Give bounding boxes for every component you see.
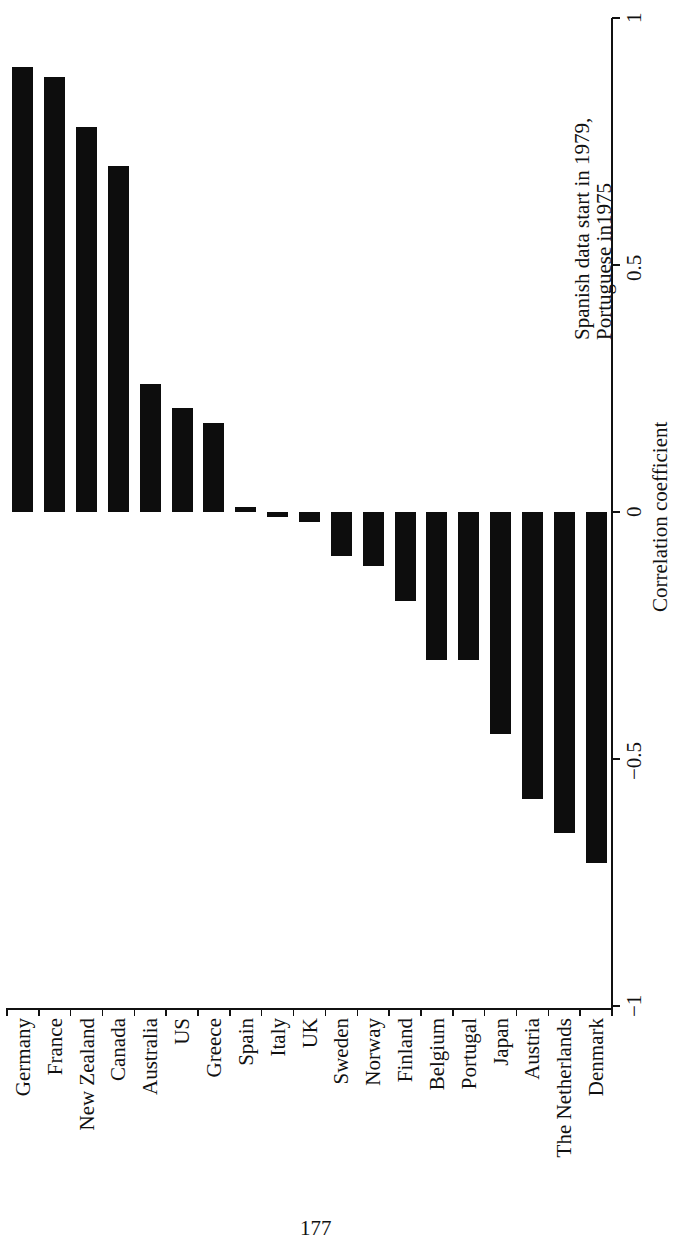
bar-the-netherlands: [554, 512, 575, 833]
bar-belgium: [426, 512, 447, 660]
bar-us: [172, 408, 193, 512]
category-label: Portugal: [457, 1018, 482, 1218]
category-tick: [102, 1008, 104, 1016]
category-label: US: [170, 1018, 195, 1218]
category-label: Australia: [138, 1018, 163, 1218]
bar-germany: [12, 67, 33, 512]
category-label: Canada: [106, 1018, 131, 1218]
category-label: Denmark: [584, 1018, 609, 1218]
category-label: Finland: [393, 1018, 418, 1218]
category-tick: [611, 1008, 613, 1016]
value-tick-label: −0.5: [622, 742, 647, 780]
category-label: The Netherlands: [552, 1018, 577, 1218]
category-tick: [325, 1008, 327, 1016]
category-label: Norway: [361, 1018, 386, 1218]
category-tick: [165, 1008, 167, 1016]
category-label: Austria: [520, 1018, 545, 1218]
category-label: Italy: [266, 1018, 291, 1218]
page-number: 177: [300, 1216, 332, 1239]
bar-italy: [267, 512, 288, 517]
category-label: Spain: [234, 1018, 259, 1218]
bar-canada: [108, 166, 129, 512]
bar-portugal: [458, 512, 479, 660]
category-tick: [70, 1008, 72, 1016]
category-tick: [6, 1008, 8, 1016]
value-tick: [612, 758, 620, 760]
value-tick: [612, 1005, 620, 1007]
category-tick: [357, 1008, 359, 1016]
annotation-line-1: Spanish data start in 1979,: [571, 118, 593, 340]
category-label: UK: [298, 1018, 323, 1218]
bar-japan: [490, 512, 511, 734]
category-label: Japan: [489, 1018, 514, 1218]
category-tick: [420, 1008, 422, 1016]
bar-finland: [395, 512, 416, 601]
category-label: Germany: [11, 1018, 36, 1218]
bar-new-zealand: [76, 127, 97, 512]
bar-uk: [299, 512, 320, 522]
bar-sweden: [331, 512, 352, 556]
value-tick-label: 1: [622, 13, 647, 24]
category-label: Belgium: [425, 1018, 450, 1218]
category-tick: [548, 1008, 550, 1016]
category-tick: [229, 1008, 231, 1016]
value-tick-label: 0.5: [622, 255, 647, 281]
bar-greece: [203, 423, 224, 512]
annotation-line-2: Portuguese in1975: [593, 118, 615, 340]
category-tick: [197, 1008, 199, 1016]
bar-spain: [235, 507, 256, 512]
category-tick: [293, 1008, 295, 1016]
value-tick-label: −1: [622, 994, 647, 1016]
category-tick: [516, 1008, 518, 1016]
category-tick: [38, 1008, 40, 1016]
bar-austria: [522, 512, 543, 799]
category-tick: [261, 1008, 263, 1016]
bar-france: [44, 77, 65, 512]
value-tick: [612, 511, 620, 513]
category-label: Greece: [202, 1018, 227, 1218]
bar-norway: [363, 512, 384, 566]
annotation-note: Spanish data start in 1979, Portuguese i…: [571, 118, 615, 340]
category-axis-line: [6, 1008, 613, 1010]
category-tick: [452, 1008, 454, 1016]
bar-australia: [140, 384, 161, 512]
value-tick: [612, 17, 620, 19]
value-axis-title: Correlation coefficient: [648, 422, 673, 612]
category-label: New Zealand: [75, 1018, 100, 1218]
bar-denmark: [586, 512, 607, 863]
category-tick: [134, 1008, 136, 1016]
value-tick-label: 0: [622, 507, 647, 518]
category-tick: [388, 1008, 390, 1016]
category-tick: [484, 1008, 486, 1016]
category-label: France: [43, 1018, 68, 1218]
category-label: Sweden: [329, 1018, 354, 1218]
category-tick: [579, 1008, 581, 1016]
